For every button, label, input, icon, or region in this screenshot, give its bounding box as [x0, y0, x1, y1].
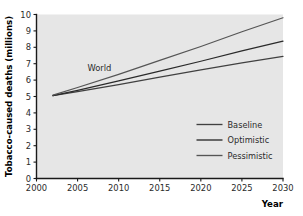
chart-annotations: World	[87, 63, 111, 73]
y-axis-ticks: 012345678910	[20, 10, 36, 184]
annotation-label: World	[87, 63, 111, 73]
x-tick-label: 2020	[190, 183, 211, 193]
y-tick-label: 2	[26, 141, 31, 151]
x-axis-title: Year	[261, 199, 284, 209]
legend-label-optimistic: Optimistic	[228, 135, 270, 145]
x-tick-label: 2025	[231, 183, 252, 193]
tobacco-deaths-line-chart: 012345678910 200020052010201520202025203…	[0, 0, 303, 216]
x-tick-label: 2030	[272, 183, 293, 193]
legend-label-pessimistic: Pessimistic	[228, 151, 273, 161]
y-tick-label: 1	[26, 157, 31, 167]
y-tick-label: 4	[26, 108, 31, 118]
x-tick-label: 2005	[67, 183, 88, 193]
x-tick-label: 2000	[26, 183, 47, 193]
y-tick-label: 0	[26, 174, 31, 184]
x-tick-label: 2010	[108, 183, 129, 193]
y-tick-label: 9	[26, 26, 31, 36]
y-tick-label: 6	[26, 75, 31, 85]
legend-label-baseline: Baseline	[228, 120, 263, 130]
x-axis-ticks: 2000200520102015202020252030	[26, 179, 294, 194]
y-tick-label: 10	[20, 10, 31, 20]
y-tick-label: 3	[26, 124, 31, 134]
y-tick-label: 7	[26, 59, 31, 69]
chart-figure: 012345678910 200020052010201520202025203…	[0, 0, 303, 216]
y-tick-label: 5	[26, 92, 31, 102]
y-axis-title: Tobacco-caused deaths (millions)	[4, 16, 14, 177]
y-tick-label: 8	[26, 42, 31, 52]
x-tick-label: 2015	[149, 183, 170, 193]
